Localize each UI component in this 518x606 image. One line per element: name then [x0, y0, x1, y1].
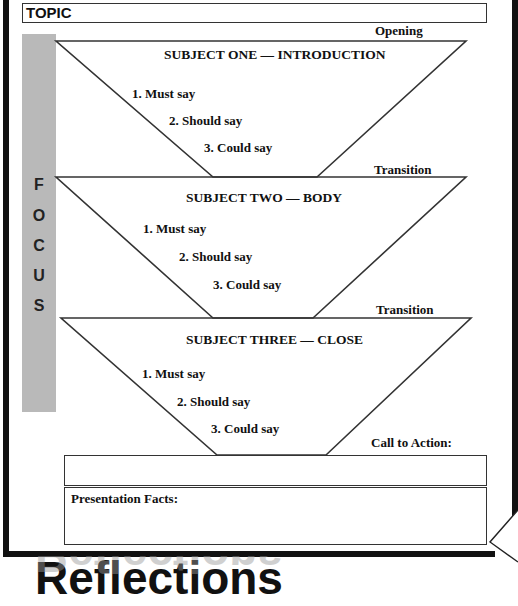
marker-transition-2: Transition	[376, 302, 434, 318]
section-3-title: SUBJECT THREE — CLOSE	[186, 332, 363, 348]
call-to-action-field[interactable]	[64, 455, 487, 486]
reflections-heading-reflection: Reflections	[35, 556, 283, 581]
section-2-title: SUBJECT TWO — BODY	[186, 190, 342, 206]
presentation-facts-label: Presentation Facts:	[71, 491, 178, 507]
marker-transition-1: Transition	[374, 162, 432, 178]
section-3-could-say: 3. Could say	[211, 421, 279, 437]
section-1-title: SUBJECT ONE — INTRODUCTION	[164, 47, 385, 63]
marker-opening: Opening	[375, 23, 423, 39]
section-2-should-say: 2. Should say	[179, 249, 252, 265]
section-1-should-say: 2. Should say	[169, 113, 242, 129]
section-3-must-say: 1. Must say	[142, 366, 205, 382]
section-1-could-say: 3. Could say	[204, 140, 272, 156]
section-1-must-say: 1. Must say	[132, 86, 195, 102]
section-2-could-say: 3. Could say	[213, 277, 281, 293]
bubble-pointer	[490, 510, 518, 562]
section-2-must-say: 1. Must say	[143, 221, 206, 237]
call-to-action-label: Call to Action:	[371, 435, 452, 451]
section-3-should-say: 2. Should say	[177, 394, 250, 410]
